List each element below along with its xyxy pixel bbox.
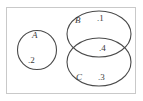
element-point-1: .1 [97, 14, 104, 23]
set-label-a: A [32, 31, 38, 40]
set-label-c: C [76, 73, 82, 82]
venn-diagram-canvas [0, 0, 143, 101]
element-point-3: .3 [98, 73, 105, 82]
element-point-4: .4 [99, 44, 106, 53]
element-point-2: .2 [28, 56, 35, 65]
venn-diagram-figure: A .2 B .1 .4 C .3 [0, 0, 143, 101]
set-label-b: B [75, 16, 81, 25]
